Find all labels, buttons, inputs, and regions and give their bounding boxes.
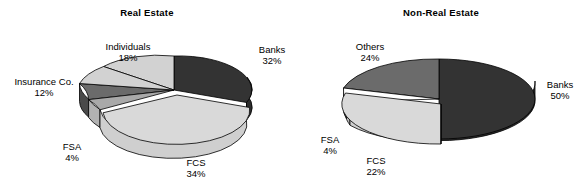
pie-label-fsa-2-name: FSA	[321, 134, 339, 145]
pie-label-fsa-2: FSA 4%	[321, 134, 339, 156]
pie-label-banks-2: Banks 50%	[547, 79, 573, 101]
pie-label-fcs-name: FCS	[186, 157, 205, 168]
pie-slice-banks	[174, 56, 252, 103]
pie-label-banks-2-name: Banks	[547, 79, 573, 90]
pie-label-individuals-name: Individuals	[106, 41, 151, 52]
pie-label-banks: Banks 32%	[259, 44, 285, 66]
pie-label-individuals-percent: 18%	[106, 52, 151, 63]
pie-label-banks-2-percent: 50%	[547, 90, 573, 101]
pie-label-individuals: Individuals 18%	[106, 41, 151, 63]
pie-label-fcs-2-name: FCS	[366, 155, 385, 166]
pie-label-fcs-2-percent: 22%	[366, 166, 385, 177]
pie-label-fcs-2: FCS 22%	[366, 155, 385, 177]
pie-label-others-name: Others	[356, 41, 385, 52]
pie-label-fcs: FCS 34%	[186, 157, 205, 179]
pie-label-insurance: Insurance Co. 12%	[14, 76, 73, 98]
pie-label-banks-percent: 32%	[259, 55, 285, 66]
chart-panel-non-real-estate: Non-Real Estate Others 24% Banks 50% FSA…	[294, 0, 588, 192]
pie-slice-fcs-2	[342, 93, 441, 144]
pie-label-fsa-name: FSA	[63, 141, 81, 152]
pie-label-fsa-percent: 4%	[63, 152, 81, 163]
pie-label-insurance-name: Insurance Co.	[14, 76, 73, 87]
pie-label-fsa-2-percent: 4%	[321, 145, 339, 156]
pie-label-fcs-percent: 34%	[186, 168, 205, 179]
pie-label-others-percent: 24%	[356, 52, 385, 63]
pie-label-fsa: FSA 4%	[63, 141, 81, 163]
pie-label-banks-name: Banks	[259, 44, 285, 55]
pie-slice-banks-2	[439, 59, 535, 139]
pie-chart-non-real-estate	[294, 0, 588, 192]
pie-label-others: Others 24%	[356, 41, 385, 63]
chart-panel-real-estate: Real Estate Individuals 18% Banks 32%	[0, 0, 294, 192]
pie-label-insurance-percent: 12%	[14, 87, 73, 98]
